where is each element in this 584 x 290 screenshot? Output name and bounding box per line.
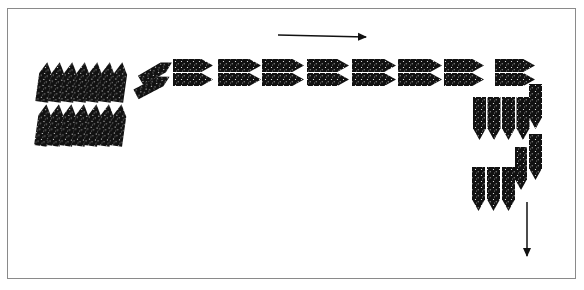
unit-icon bbox=[352, 73, 396, 86]
unit-icon bbox=[529, 134, 542, 180]
unit-icon bbox=[173, 59, 213, 72]
unit-icon bbox=[515, 147, 527, 190]
unit-icon bbox=[444, 73, 484, 86]
unit-icon bbox=[307, 73, 349, 86]
unit-icon bbox=[487, 167, 500, 211]
unit-icon bbox=[352, 59, 396, 72]
unit-icon bbox=[529, 84, 542, 129]
unit-icon bbox=[473, 97, 486, 140]
arrow-right-icon bbox=[278, 35, 366, 37]
unit-icon bbox=[110, 61, 128, 102]
unit-icon bbox=[262, 59, 304, 72]
unit-icon bbox=[495, 59, 535, 72]
formation-diagram bbox=[0, 0, 584, 290]
unit-icon bbox=[444, 59, 484, 72]
unit-icon bbox=[262, 73, 304, 86]
unit-icon bbox=[173, 73, 213, 86]
unit-icon bbox=[517, 97, 530, 140]
unit-icon bbox=[109, 103, 128, 146]
unit-icon bbox=[218, 59, 261, 72]
formation-units bbox=[34, 58, 542, 211]
unit-icon bbox=[502, 167, 515, 211]
unit-icon bbox=[307, 59, 349, 72]
unit-icon bbox=[218, 73, 261, 86]
unit-icon bbox=[398, 73, 442, 86]
unit-icon bbox=[398, 59, 442, 72]
unit-icon bbox=[502, 97, 515, 140]
unit-icon bbox=[488, 97, 501, 140]
unit-icon bbox=[472, 167, 485, 211]
